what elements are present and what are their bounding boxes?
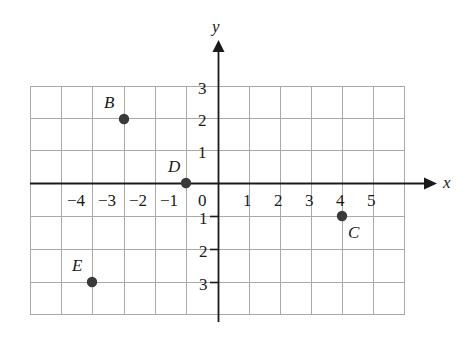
- x-axis-arrowhead: [424, 178, 437, 190]
- data-point-b: [119, 114, 129, 124]
- data-point-c: [337, 211, 347, 221]
- point-label-b: B: [104, 94, 114, 111]
- data-point-e: [87, 277, 97, 287]
- y-tick-label-1: 1: [198, 144, 207, 161]
- graph-canvas: [0, 0, 476, 341]
- x-tick-label-3: 3: [305, 192, 314, 209]
- data-point-d: [181, 178, 191, 188]
- y-axis-arrowhead: [213, 40, 225, 52]
- grid-lines: [30, 86, 405, 315]
- x-tick-label-4: 4: [336, 192, 345, 209]
- x-tick-label--4: −4: [67, 192, 85, 209]
- y-tick-label--2: 2: [199, 243, 208, 260]
- x-tick-label-0: 0: [198, 192, 207, 209]
- x-tick-label-5: 5: [367, 192, 376, 209]
- x-tick-label--1: −1: [160, 192, 178, 209]
- y-tick-label-3: 3: [198, 80, 207, 97]
- x-tick-label--3: −3: [98, 192, 116, 209]
- x-tick-label-2: 2: [274, 192, 283, 209]
- x-axis-label: x: [443, 174, 451, 191]
- x-tick-label--2: −2: [129, 192, 147, 209]
- point-label-d: D: [168, 158, 180, 175]
- y-tick-label--1: 1: [199, 210, 208, 227]
- coordinate-plane-figure: y x −4 −3 −2 −1 0 1 2 3 4 5 3 2 1 1 2 3 …: [0, 0, 476, 341]
- y-axis-label: y: [212, 18, 220, 35]
- y-tick-label--3: 3: [199, 276, 208, 293]
- y-tick-label-2: 2: [198, 112, 207, 129]
- point-label-e: E: [72, 257, 82, 274]
- x-tick-label-1: 1: [243, 192, 252, 209]
- point-label-c: C: [348, 224, 359, 241]
